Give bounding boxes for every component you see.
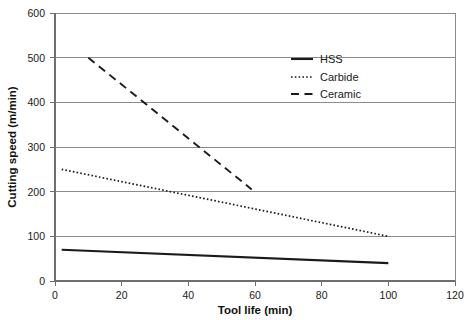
chart-canvas: 600 500 400 300 200 100 0 0 20 40 60 80 … xyxy=(0,0,469,320)
x-tick-label-80: 80 xyxy=(316,289,328,301)
y-tick-label-400: 400 xyxy=(27,96,45,108)
x-tick-label-40: 40 xyxy=(182,289,194,301)
legend-label-ceramic: Ceramic xyxy=(320,88,361,100)
x-axis-title: Tool life (min) xyxy=(218,304,293,316)
y-tick-label-300: 300 xyxy=(27,141,45,153)
x-tick-label-100: 100 xyxy=(380,289,398,301)
y-tick-label-200: 200 xyxy=(27,186,45,198)
y-tick-label-500: 500 xyxy=(27,52,45,64)
x-tick-label-0: 0 xyxy=(52,289,58,301)
y-tick-label-100: 100 xyxy=(27,230,45,242)
y-axis-title: Cutting speed (m/min) xyxy=(6,86,18,208)
legend-label-carbide: Carbide xyxy=(320,71,359,83)
legend-label-hss: HSS xyxy=(320,53,343,65)
x-tick-label-20: 20 xyxy=(116,289,128,301)
y-tick-label-600: 600 xyxy=(27,7,45,19)
y-tick-label-0: 0 xyxy=(39,275,45,287)
chart-background xyxy=(0,0,469,320)
x-tick-label-60: 60 xyxy=(249,289,261,301)
x-tick-label-120: 120 xyxy=(446,289,464,301)
chart-figure: 600 500 400 300 200 100 0 0 20 40 60 80 … xyxy=(0,0,469,320)
